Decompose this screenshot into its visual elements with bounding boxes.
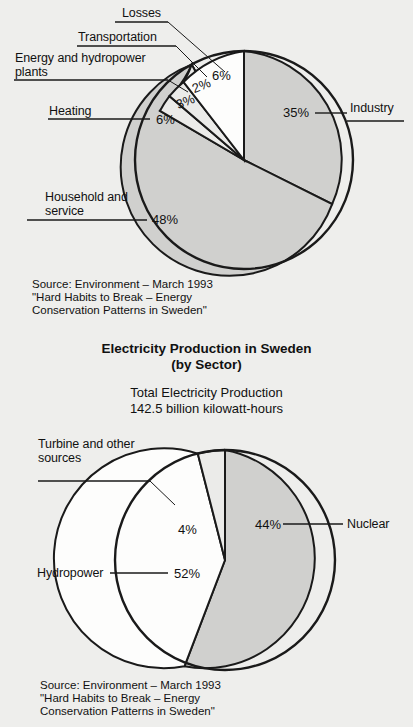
source-line-1-top: Source: Environment – March 1993	[32, 278, 213, 292]
chart-title-line2: (by Sector)	[0, 357, 413, 373]
source-line-2-top: "Hard Habits to Break – Energy	[32, 291, 192, 305]
label-nuclear: Nuclear	[347, 517, 389, 531]
label-transportation: Transportation	[78, 30, 157, 44]
chart-title-line1: Electricity Production in Sweden	[0, 341, 413, 357]
label-losses: Losses	[122, 6, 161, 20]
value-turbine-and-other-sources: 4%	[178, 522, 197, 537]
chart-subtitle-line1: Total Electricity Production	[0, 385, 413, 401]
value-industry: 35%	[283, 105, 309, 120]
source-line-1-bottom: Source: Environment – March 1993	[40, 679, 221, 693]
label-industry: Industry	[350, 101, 394, 115]
label-turbine-and-other-sources-line1: Turbine and other	[38, 437, 135, 451]
label-hydropower: Hydropower	[37, 566, 103, 580]
value-losses: 6%	[212, 68, 231, 83]
value-heating: 6%	[156, 112, 175, 127]
energy-use-pie-chart	[0, 0, 413, 300]
source-line-2-bottom: "Hard Habits to Break – Energy	[40, 692, 200, 706]
label-turbine-and-other-sources-line2: sources	[38, 451, 81, 465]
label-energy-and-hydropower-plants-line2: plants	[15, 65, 48, 79]
label-household-and-service-line1: Household and	[45, 190, 128, 204]
value-nuclear: 44%	[255, 517, 281, 532]
source-line-3-bottom: Conservation Patterns in Sweden"	[40, 705, 215, 719]
label-household-and-service-line2: service	[45, 204, 84, 218]
value-household-and-service: 48%	[152, 212, 178, 227]
label-heating: Heating	[49, 104, 91, 118]
source-line-3-top: Conservation Patterns in Sweden"	[32, 304, 207, 318]
infographic-page: Losses Transportation Energy and hydropo…	[0, 0, 413, 727]
label-energy-and-hydropower-plants-line1: Energy and hydropower	[15, 51, 146, 65]
chart-subtitle-line2: 142.5 billion kilowatt-hours	[0, 401, 413, 417]
value-hydropower: 52%	[174, 566, 200, 581]
